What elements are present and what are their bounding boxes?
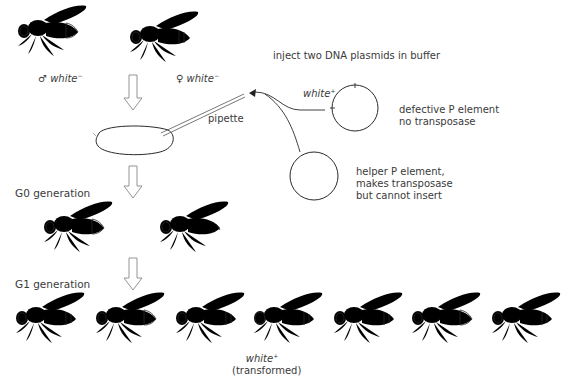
g1-generation-label: G1 generation <box>15 278 90 290</box>
description-line: but cannot insert <box>356 190 453 202</box>
g1-fly-row <box>12 293 570 349</box>
genotype-superscript: + <box>273 352 278 359</box>
plasmid-1-circle <box>332 85 378 131</box>
embryo-shape <box>96 126 173 155</box>
gene-text: white <box>303 88 330 99</box>
down-arrow-icon <box>124 166 142 198</box>
genotype-text: white <box>246 353 273 364</box>
plasmid-2-description: helper P element, makes transposase but … <box>356 166 453 202</box>
down-arrow-icon <box>124 75 142 110</box>
g0-generation-label: G0 generation <box>15 187 90 199</box>
fly-icon <box>12 293 92 349</box>
fly-icon <box>92 293 172 349</box>
description-line: helper P element, <box>356 166 453 178</box>
g0-fly-female <box>156 202 236 258</box>
fly-icon <box>488 293 568 349</box>
fly-icon <box>330 293 410 349</box>
fly-icon <box>172 293 252 349</box>
arrowhead-icon <box>249 89 256 97</box>
pipette-label: pipette <box>208 113 244 125</box>
description-line: makes transposase <box>356 178 453 190</box>
g0-fly-male <box>40 202 120 258</box>
description-line: no transposase <box>399 116 499 128</box>
fly-icon <box>250 293 330 349</box>
plasmid-1-description: defective P element no transposase <box>399 104 499 128</box>
injection-instruction: inject two DNA plasmids in buffer <box>273 50 440 62</box>
transformed-note: (transformed) <box>232 365 292 377</box>
fly-icon <box>40 202 120 258</box>
transformed-label: white+ (transformed) <box>232 350 292 377</box>
plasmid-2-circle <box>290 152 338 200</box>
down-arrow-icon <box>124 258 142 290</box>
plasmid-1-gene-label: white+ <box>303 85 335 100</box>
gene-superscript: + <box>330 87 335 94</box>
description-line: defective P element <box>399 104 499 116</box>
fly-icon <box>408 293 488 349</box>
fly-icon <box>156 202 236 258</box>
